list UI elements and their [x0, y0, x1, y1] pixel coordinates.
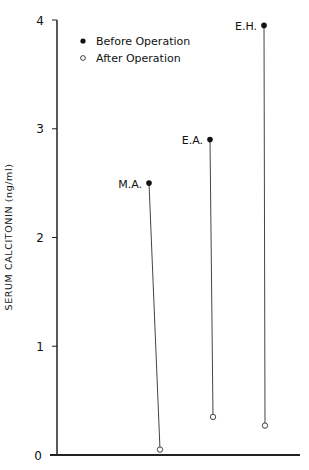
- open-circle-icon: [81, 56, 86, 61]
- series-eh: E.H.: [235, 20, 268, 428]
- y-tick-label-4: 4: [36, 14, 44, 28]
- after-point-ea: [210, 414, 215, 419]
- point-label-eh: E.H.: [235, 20, 257, 33]
- y-tick-label-0: 0: [34, 449, 42, 463]
- series-ea: E.A.: [182, 134, 216, 420]
- y-tick-label-2: 2: [36, 231, 44, 245]
- after-point-ma: [157, 447, 162, 452]
- legend: Before Operation After Operation: [80, 35, 190, 65]
- series-ma: M.A.: [118, 178, 163, 452]
- before-point-eh: [261, 23, 267, 29]
- legend-before-label: Before Operation: [96, 35, 190, 48]
- y-tick-label-3: 3: [36, 122, 44, 136]
- calcitonin-chart: 4 3 2 1 0 SERUM CALCITONIN (ng/ml) Befor…: [0, 0, 309, 470]
- filled-circle-icon: [80, 38, 85, 43]
- before-point-ea: [207, 137, 213, 143]
- y-tick-label-1: 1: [36, 340, 44, 354]
- point-label-ea: E.A.: [182, 134, 203, 147]
- after-point-eh: [262, 423, 267, 428]
- y-ticks: 4 3 2 1 0: [34, 14, 57, 463]
- legend-after-label: After Operation: [96, 52, 181, 65]
- point-label-ma: M.A.: [118, 178, 142, 191]
- y-axis-label: SERUM CALCITONIN (ng/ml): [3, 164, 14, 311]
- before-point-ma: [146, 180, 152, 186]
